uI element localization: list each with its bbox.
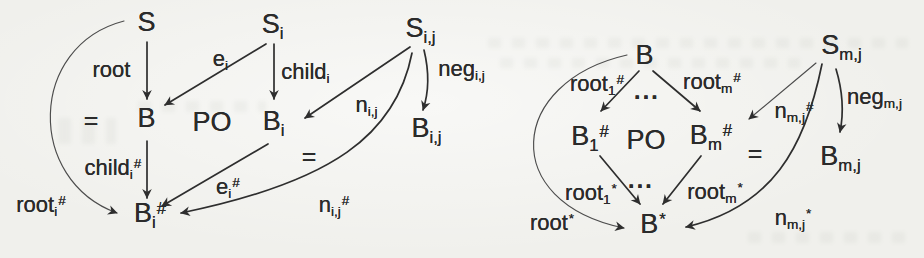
edge-label-e-i: ei bbox=[213, 48, 229, 73]
node-s: S bbox=[137, 9, 156, 40]
node-b-i: Bi bbox=[263, 108, 286, 139]
edge-label-root-1-hash: root1# bbox=[570, 73, 624, 98]
edge-label-root-m-star: rootm* bbox=[687, 181, 743, 206]
edge-label-n-mj-star: nm,j* bbox=[775, 207, 812, 232]
edge-label-n-ij: ni,j bbox=[355, 94, 378, 119]
edge-label-neg-ij: negi,j bbox=[438, 58, 486, 83]
node-s-mj: Sm,j bbox=[821, 32, 862, 63]
node-b-ij: Bi,j bbox=[411, 115, 442, 146]
node-b-mj: Bm,j bbox=[820, 143, 861, 174]
arrow-e-i-hash bbox=[162, 144, 268, 206]
equals-sign-left-outer: = bbox=[84, 108, 99, 133]
edge-label-root-1-star: root1* bbox=[565, 182, 617, 207]
edge-label-child-i-hash: childi# bbox=[85, 157, 142, 182]
edge-label-root-star: root* bbox=[530, 212, 574, 237]
equals-sign-right: = bbox=[748, 141, 763, 166]
node-b-i-hash: Bi# bbox=[134, 200, 166, 231]
edge-label-root-i-hash: rooti# bbox=[16, 194, 66, 219]
edge-label-e-i-hash: ei# bbox=[216, 176, 240, 201]
edge-label-root-m-hash: rootm# bbox=[683, 71, 741, 96]
edge-label-n-ij-hash: ni,j# bbox=[319, 194, 350, 219]
node-b-1-hash: B1# bbox=[571, 123, 609, 154]
edge-label-neg-mj: negm,j bbox=[847, 86, 903, 111]
node-s-ij: Si,j bbox=[405, 15, 436, 46]
pushout-label-left: PO bbox=[192, 109, 231, 136]
edge-label-root: root bbox=[93, 59, 132, 84]
node-b-m-hash: Bm# bbox=[690, 122, 732, 153]
pushout-label-right: PO bbox=[626, 127, 665, 154]
edge-label-child-i: childi bbox=[281, 61, 330, 86]
edge-label-n-mj-hash: nm,j# bbox=[775, 100, 814, 125]
node-b-star: B* bbox=[640, 211, 666, 242]
figure-canvas: S Si Si,j = B PO Bi = Bi,j Bi# root ei c… bbox=[0, 0, 924, 258]
ellipsis-top: ··· bbox=[634, 86, 660, 109]
node-s-i: Si bbox=[262, 11, 285, 42]
node-b: B bbox=[137, 105, 156, 136]
arrow-neg-ij bbox=[423, 50, 428, 110]
arrow-neg-mj bbox=[836, 69, 842, 132]
ellipsis-bottom: ··· bbox=[628, 175, 654, 198]
node-b-right: B bbox=[635, 42, 654, 73]
equals-sign-left-inner: = bbox=[302, 144, 317, 169]
